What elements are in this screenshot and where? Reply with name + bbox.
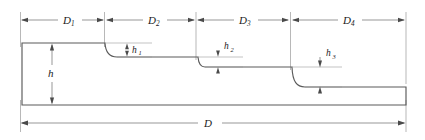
dim-h3-arrow-top-icon [318, 61, 322, 68]
dim-d3-label: D [238, 14, 247, 26]
top-dimension-chain: D 1 D 2 D 3 [21, 14, 405, 29]
dimension-d3: D 3 [197, 14, 289, 29]
dim-d-arrow-left-icon [21, 121, 29, 126]
dim-h2-arrow-bottom-icon [216, 67, 220, 73]
dim-h2-arrow-top-icon [216, 51, 220, 57]
dim-h3-label-sub: 3 [332, 53, 336, 60]
dim-h2-label: h [224, 41, 229, 51]
dim-h-label: h [48, 67, 54, 79]
dim-h-arrow-bottom-icon [50, 98, 54, 105]
profile-outline-path [22, 43, 406, 105]
dim-d3-arrow-left-icon [197, 18, 204, 22]
dimension-d4: D 4 [292, 14, 405, 29]
dim-d1-label: D [62, 14, 71, 26]
dim-d2-arrow-right-icon [188, 18, 195, 22]
dimension-d1: D 1 [21, 14, 104, 29]
extension-lines [21, 12, 407, 132]
dim-d3-arrow-right-icon [282, 18, 289, 22]
dim-h2-label-sub: 2 [231, 46, 235, 53]
dim-d2-label-sub: 2 [156, 20, 160, 28]
stepped-profile-diagram: D 1 D 2 D 3 [0, 0, 425, 140]
figure-canvas: D 1 D 2 D 3 [0, 0, 425, 140]
dim-h1-arrow-bottom-icon [125, 51, 129, 57]
dim-d4-arrow-left-icon [292, 18, 299, 22]
dimension-h2: h 2 [198, 41, 243, 74]
dim-h1-label: h [132, 45, 137, 55]
dimension-d-total: D [21, 117, 406, 129]
dim-h1-label-sub: 1 [139, 49, 142, 56]
dim-d4-arrow-right-icon [398, 18, 405, 22]
dimension-d2: D 2 [106, 14, 195, 29]
profile-body [22, 43, 406, 105]
dim-d3-label-sub: 3 [246, 20, 251, 28]
dim-d1-arrow-right-icon [97, 18, 104, 22]
dim-h-arrow-top-icon [50, 44, 54, 51]
dim-d-label: D [203, 117, 212, 129]
dim-d2-label: D [147, 14, 156, 26]
dim-d2-arrow-left-icon [106, 18, 113, 22]
dimension-h1: h 1 [105, 43, 152, 57]
dim-d4-label: D [342, 14, 351, 26]
dim-d1-arrow-left-icon [21, 18, 28, 22]
dim-d-arrow-right-icon [398, 121, 406, 126]
dimension-h: h [48, 44, 54, 105]
dim-d1-label-sub: 1 [71, 20, 75, 28]
dim-d4-label-sub: 4 [351, 20, 355, 28]
dim-h1-arrow-top-icon [125, 44, 129, 50]
dim-h3-label: h [326, 48, 331, 58]
